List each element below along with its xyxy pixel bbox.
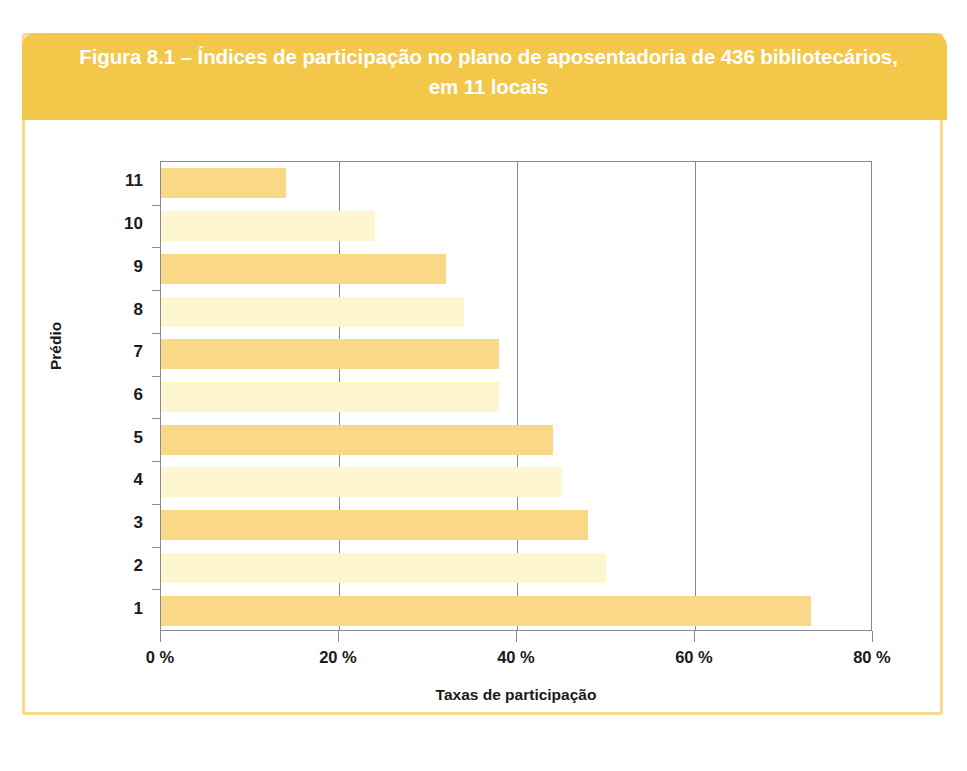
y-tick-label-4: 4 — [103, 470, 143, 490]
y-tick-mark — [152, 461, 161, 462]
bar-row — [161, 467, 873, 497]
bar-predio-8[interactable] — [161, 297, 464, 327]
plot-area — [160, 161, 872, 631]
bar-row — [161, 254, 873, 284]
y-tick-label-7: 7 — [103, 342, 143, 362]
y-tick-label-1: 1 — [103, 599, 143, 619]
y-tick-label-11: 11 — [103, 171, 143, 191]
bar-row — [161, 168, 873, 198]
x-axis-title: Taxas de participação — [160, 686, 872, 704]
x-tick-label-60: 60 % — [654, 648, 734, 667]
y-tick-label-2: 2 — [103, 556, 143, 576]
bar-predio-6[interactable] — [161, 382, 499, 412]
y-tick-mark — [152, 247, 161, 248]
bar-row — [161, 596, 873, 626]
bar-row — [161, 553, 873, 583]
x-tick-mark-60 — [694, 631, 695, 642]
bar-predio-7[interactable] — [161, 339, 499, 369]
x-tick-label-40: 40 % — [476, 648, 556, 667]
x-tick-mark-0 — [160, 631, 161, 642]
y-tick-label-9: 9 — [103, 257, 143, 277]
bar-predio-11[interactable] — [161, 168, 286, 198]
bar-predio-3[interactable] — [161, 510, 588, 540]
bar-row — [161, 382, 873, 412]
y-tick-label-8: 8 — [103, 300, 143, 320]
bar-predio-9[interactable] — [161, 254, 446, 284]
x-tick-mark-20 — [338, 631, 339, 642]
y-tick-mark — [152, 504, 161, 505]
y-tick-mark — [152, 333, 161, 334]
bar-row — [161, 425, 873, 455]
y-tick-label-3: 3 — [103, 513, 143, 533]
y-tick-mark — [152, 376, 161, 377]
y-tick-label-10: 10 — [103, 214, 143, 234]
y-tick-mark — [152, 418, 161, 419]
bar-predio-1[interactable] — [161, 596, 811, 626]
y-tick-label-6: 6 — [103, 385, 143, 405]
bar-predio-4[interactable] — [161, 467, 562, 497]
x-tick-label-80: 80 % — [832, 648, 912, 667]
x-tick-label-20: 20 % — [298, 648, 378, 667]
y-tick-mark — [152, 589, 161, 590]
y-tick-mark — [152, 547, 161, 548]
bar-predio-10[interactable] — [161, 211, 375, 241]
y-axis-title: Prédio — [47, 322, 65, 370]
y-tick-mark — [152, 205, 161, 206]
y-tick-mark — [152, 290, 161, 291]
bar-row — [161, 297, 873, 327]
bar-predio-5[interactable] — [161, 425, 553, 455]
x-tick-mark-40 — [516, 631, 517, 642]
x-tick-label-0: 0 % — [120, 648, 200, 667]
bar-predio-2[interactable] — [161, 553, 606, 583]
y-tick-label-5: 5 — [103, 428, 143, 448]
bar-chart: Prédio Taxas de participação 12345678910… — [0, 0, 967, 771]
bar-row — [161, 339, 873, 369]
x-tick-mark-80 — [872, 631, 873, 642]
bar-row — [161, 510, 873, 540]
bar-row — [161, 211, 873, 241]
